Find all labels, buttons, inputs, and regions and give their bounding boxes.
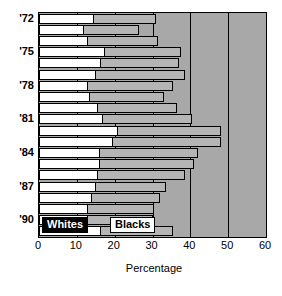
x-axis-tick-label: 10 [63, 239, 89, 251]
bar-row [39, 25, 266, 35]
y-axis-tick-label: '84 [4, 147, 34, 158]
x-axis-tick-label: 0 [25, 239, 51, 251]
bar-row [39, 170, 266, 180]
bar-row [39, 36, 266, 46]
x-axis-title: Percentage [0, 262, 282, 274]
bar-row [39, 70, 266, 80]
bar-row [39, 92, 266, 102]
bar-row [39, 159, 266, 169]
bar-segment-whites [39, 215, 88, 225]
bar-segment-whites [39, 114, 103, 124]
bar-segment-whites [39, 193, 92, 203]
bar-row [39, 182, 266, 192]
bar-segment-whites [39, 137, 113, 147]
x-axis-ticks: 0102030405060 [0, 239, 282, 257]
bar-segment-whites [39, 159, 100, 169]
y-axis-tick-label: '72 [4, 13, 34, 24]
bar-segment-whites [39, 126, 118, 136]
bar-row [39, 226, 266, 236]
chart-container: '72'75'78'81'84'87'90 0102030405060 Perc… [0, 0, 282, 296]
bar-segment-whites [39, 103, 98, 113]
bar-segment-whites [39, 70, 96, 80]
bar-segment-whites [39, 36, 88, 46]
bar-segment-whites [39, 226, 101, 236]
bar-row [39, 103, 266, 113]
y-axis-tick-label: '75 [4, 46, 34, 57]
bar-row [39, 193, 266, 203]
bar-row [39, 47, 266, 57]
bar-segment-whites [39, 204, 88, 214]
bar-row [39, 204, 266, 214]
x-axis-tick-label: 30 [139, 239, 165, 251]
bar-segment-whites [39, 148, 100, 158]
bar-row [39, 137, 266, 147]
bar-row [39, 81, 266, 91]
bar-segment-whites [39, 92, 90, 102]
bar-row [39, 148, 266, 158]
bar-segment-whites [39, 81, 88, 91]
bar-row [39, 14, 266, 24]
bar-row [39, 126, 266, 136]
plot-area [38, 12, 267, 238]
y-axis-labels: '72'75'78'81'84'87'90 [0, 12, 34, 236]
bar-segment-whites [39, 25, 84, 35]
x-axis-tick-label: 20 [101, 239, 127, 251]
y-axis-tick-label: '81 [4, 113, 34, 124]
bar-segment-whites [39, 182, 96, 192]
y-axis-tick-label: '87 [4, 181, 34, 192]
bar-segment-whites [39, 58, 101, 68]
bar-segment-whites [39, 47, 105, 57]
x-axis-tick-label: 40 [176, 239, 202, 251]
y-axis-tick-label: '90 [4, 214, 34, 225]
x-axis-tick-label: 50 [214, 239, 240, 251]
y-axis-tick-label: '78 [4, 80, 34, 91]
bar-segment-whites [39, 14, 94, 24]
bar-row [39, 114, 266, 124]
bar-segment-whites [39, 170, 98, 180]
x-axis-tick-label: 60 [252, 239, 278, 251]
bar-row [39, 215, 266, 225]
bar-row [39, 58, 266, 68]
